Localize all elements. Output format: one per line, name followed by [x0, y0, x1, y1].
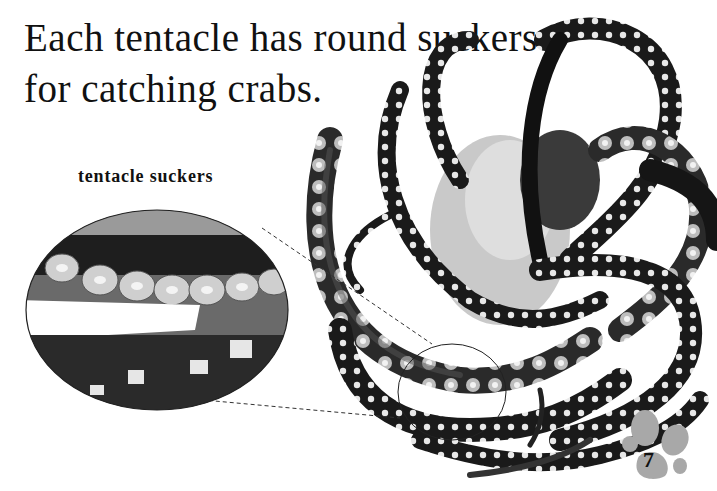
inset-caption: tentacle suckers — [78, 166, 213, 187]
octopus-illustration — [0, 0, 717, 491]
page-number: 7 — [643, 447, 654, 473]
inset-magnifier — [20, 200, 300, 420]
